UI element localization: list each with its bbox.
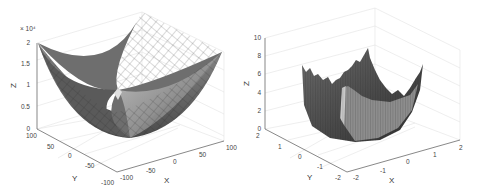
y-tick: -1	[317, 163, 323, 170]
z-axis-label: Z	[9, 83, 18, 88]
surface-mesh	[38, 12, 222, 138]
x-tick: 100	[226, 144, 237, 151]
z-axis-label: Z	[242, 81, 251, 86]
z-tick: 1.5	[21, 60, 30, 67]
y-tick: 0	[298, 153, 302, 160]
x-axis-label: X	[164, 176, 170, 185]
x-tick: -50	[146, 167, 156, 174]
z-tick: 8	[257, 52, 261, 59]
paraboloid-surface-plot: × 10⁴ 2 1.5 1 0.5 0 Z 100 50 0 -50 -100 …	[0, 0, 240, 194]
y-axis-label: Y	[72, 174, 78, 183]
x-tick: 1	[433, 151, 437, 158]
x-tick: 0	[406, 158, 410, 165]
z-exponent-label: × 10⁴	[20, 25, 36, 32]
z-tick: 2	[26, 39, 30, 46]
z-tick: 2	[257, 107, 261, 114]
x-tick: 2	[459, 144, 463, 151]
z-tick: 0.5	[21, 103, 30, 110]
x-tick: 0	[173, 158, 177, 165]
y-tick: -50	[85, 162, 95, 169]
y-tick: -100	[101, 179, 114, 186]
x-axis-label: X	[389, 176, 395, 185]
y-tick: 0	[68, 152, 72, 159]
z-tick: 0	[257, 125, 261, 132]
z-tick: 4	[257, 89, 261, 96]
y-axis-label: Y	[307, 173, 313, 182]
x-tick: -100	[120, 174, 133, 181]
z-tick: 0	[26, 125, 30, 132]
y-tick: 2	[256, 132, 260, 139]
z-tick: 10	[254, 34, 262, 41]
surface-mesh	[302, 48, 423, 142]
x-tick: 50	[199, 151, 207, 158]
z-tick: 1	[26, 81, 30, 88]
noisy-bowl-surface-plot: 10 8 6 4 2 0 Z 2 1 0 -1 -2 Y -2 -1 0 1 2…	[240, 0, 478, 194]
y-tick: 1	[278, 143, 282, 150]
y-tick: -2	[335, 174, 341, 181]
x-tick: -2	[353, 174, 359, 181]
z-tick: 6	[257, 70, 261, 77]
y-tick: 50	[47, 143, 55, 150]
y-tick: 100	[26, 132, 37, 139]
x-tick: -1	[380, 167, 386, 174]
